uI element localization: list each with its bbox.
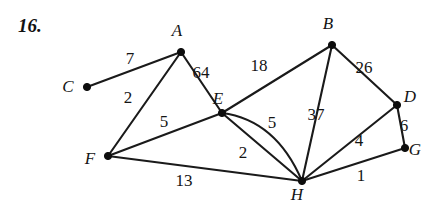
edge-weight-label: 37	[308, 105, 326, 124]
edge-weight-label: 18	[251, 56, 268, 75]
vertex-label: A	[171, 21, 183, 40]
graph-edge	[222, 45, 332, 113]
edge-weight-label: 5	[160, 112, 169, 131]
graph-vertex-dot	[298, 177, 305, 184]
graph-vertex-dot	[218, 109, 225, 116]
vertex-label: B	[323, 14, 334, 33]
vertex-labels-group: ABCDEFGH	[62, 14, 421, 204]
edge-weight-labels-group: 726418265253746113	[124, 49, 409, 190]
edge-weight-label: 6	[400, 116, 409, 135]
edge-weight-label: 4	[355, 131, 364, 150]
figure-canvas: 16. 726418265253746113 ABCDEFGH	[0, 0, 439, 205]
graph-edge	[108, 52, 181, 156]
graph-vertex-dot	[393, 101, 400, 108]
vertex-label: C	[62, 77, 74, 96]
graph-vertex-dot	[328, 41, 335, 48]
graph-vertex-dot	[104, 152, 111, 159]
vertex-label: H	[290, 185, 305, 204]
weighted-graph-diagram: 726418265253746113 ABCDEFGH	[0, 0, 439, 205]
edge-weight-label: 2	[124, 88, 133, 107]
graph-vertex-dot	[401, 144, 408, 151]
graph-edge	[302, 148, 405, 181]
graph-vertex-dot	[177, 48, 184, 55]
vertex-label: F	[84, 149, 96, 168]
vertex-label: G	[409, 140, 421, 159]
edge-weight-label: 7	[126, 49, 135, 68]
edge-weight-label: 26	[356, 58, 373, 77]
edge-weight-label: 64	[193, 63, 211, 82]
graph-vertex-dot	[83, 83, 90, 90]
vertex-label: E	[212, 89, 224, 108]
graph-edge	[222, 113, 302, 181]
edge-weight-label: 1	[357, 166, 366, 185]
edge-weight-label: 13	[176, 171, 193, 190]
graph-edge	[108, 156, 302, 181]
edge-weight-label: 5	[268, 113, 277, 132]
edge-weight-label: 2	[239, 143, 248, 162]
vertex-label: D	[403, 87, 417, 106]
